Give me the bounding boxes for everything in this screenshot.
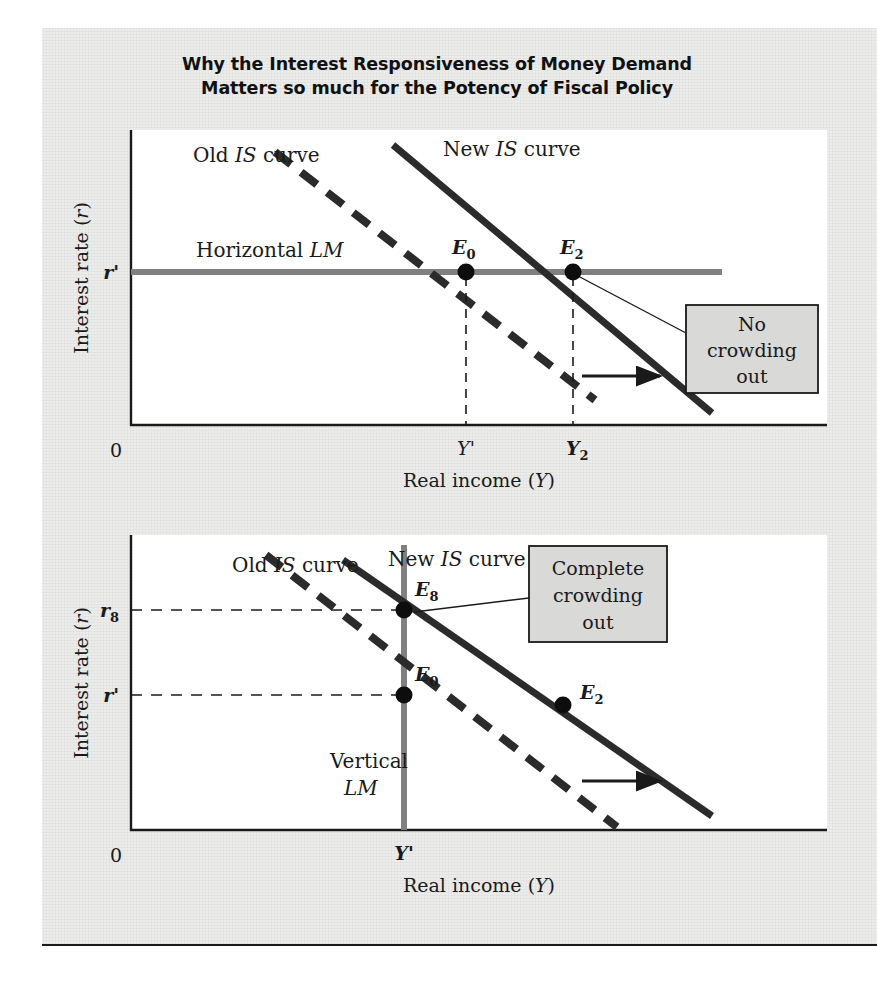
bottom-point-e2-marker (555, 697, 572, 714)
bottom-point-e8-marker (396, 602, 413, 619)
figure-bottom-rule (42, 944, 877, 946)
bottom-x-tick-y-prime: Y' (394, 842, 413, 864)
bottom-callout-line-2: crowding (553, 584, 643, 606)
figure-root: Why the Interest Responsiveness of Money… (0, 0, 877, 981)
bottom-lm-curve-label-line1: Vertical (329, 749, 408, 773)
bottom-old-is-curve-label: Old IS curve (232, 553, 359, 577)
bottom-callout-line-3: out (582, 611, 614, 633)
bottom-panel: Old IS curve New IS curve Vertical LM E8… (0, 0, 877, 981)
bottom-origin-label: 0 (110, 844, 122, 866)
bottom-callout-line-1: Complete (552, 557, 644, 579)
bottom-y-tick-r8: r8 (100, 599, 119, 625)
bottom-plot-area (130, 535, 827, 830)
bottom-y-tick-r-prime: r' (103, 684, 119, 706)
bottom-x-axis-title: Real income (Y) (403, 874, 555, 896)
bottom-lm-curve-label-line2: LM (343, 776, 378, 800)
bottom-y-axis-title: Interest rate (r) (70, 607, 92, 759)
bottom-point-e0-marker (396, 687, 413, 704)
bottom-new-is-curve-label: New IS curve (388, 547, 526, 571)
